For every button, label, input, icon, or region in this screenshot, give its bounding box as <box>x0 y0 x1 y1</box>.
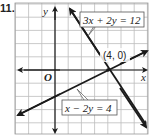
origin-label: O <box>44 71 52 83</box>
equation-label-2: x − 2y = 4 <box>64 102 112 114</box>
x-axis-label: x <box>140 71 146 83</box>
intersection-point <box>106 68 110 72</box>
intersection-label: (4, 0) <box>103 50 126 61</box>
y-axis-label: y <box>42 5 48 17</box>
coordinate-graph: y x O (4, 0) 3x + 2y = 12 x − 2y = 4 <box>0 0 152 136</box>
equation-label-1: 3x + 2y = 12 <box>82 14 141 26</box>
